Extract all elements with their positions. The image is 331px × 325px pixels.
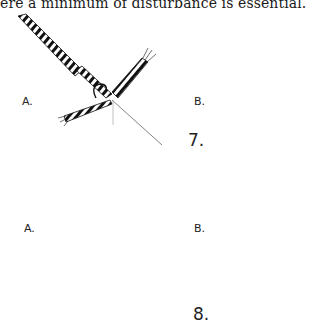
fig7-panel-b-label: B. [194,95,205,108]
fig7-panel-a-label: A. [22,95,33,108]
figure-8-number: 8. [193,304,209,324]
fig8-panel-a-label: A. [24,222,35,235]
fig7a-drawing [18,14,162,145]
fig8-panel-b-label: B. [194,222,205,235]
fly-tying-illustrations [0,0,331,325]
figure-7-number: 7. [188,130,204,150]
